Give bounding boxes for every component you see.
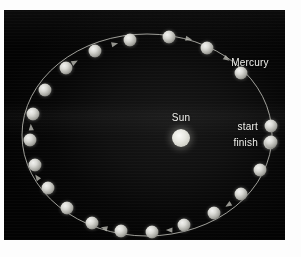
orbit-diagram: MercurySunstartfinish: [4, 10, 285, 240]
orbit-direction-arrow-1: [71, 58, 79, 66]
orbit-direction-arrow-8: [166, 227, 173, 232]
orbit-direction-arrow-9: [224, 201, 232, 209]
orbit-direction-arrow-2: [111, 41, 119, 48]
orbit-direction-arrow-6: [33, 173, 41, 181]
finish-label: finish: [233, 138, 258, 148]
mercury-label: Mercury: [231, 58, 269, 68]
sun-label: Sun: [172, 113, 190, 123]
orbit-direction-arrow-3: [185, 36, 193, 42]
figure-canvas: MercurySunstartfinish: [0, 0, 301, 257]
orbit-direction-arrow-5: [28, 124, 34, 131]
start-label: start: [238, 122, 258, 132]
